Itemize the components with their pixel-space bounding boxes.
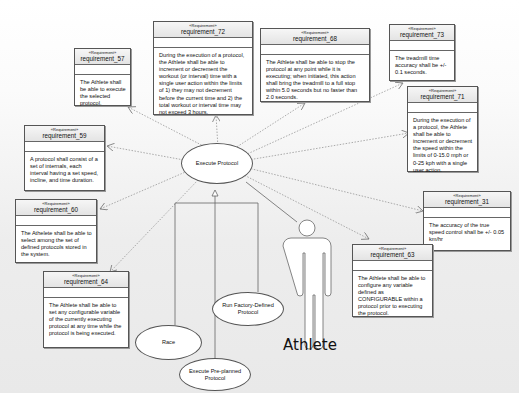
requirement-60[interactable]: «Requirement»requirement_60 The Athelete… xyxy=(15,199,97,263)
requirement-text: During the execution of a protocol, the … xyxy=(154,48,252,120)
requirement-63[interactable]: «Requirement»requirement_63 The Athlete … xyxy=(352,244,433,317)
requirement-text: A protocol shall consist of a set of int… xyxy=(25,152,104,188)
use-case-race[interactable]: Race xyxy=(135,325,202,360)
requirement-text: The accuracy of the true speed control s… xyxy=(424,218,510,247)
attribute-compartment xyxy=(261,45,369,55)
attribute-compartment xyxy=(75,65,130,75)
requirement-59[interactable]: «Requirement»requirement_59 A protocol s… xyxy=(24,125,105,191)
requirement-text: The treadmill time accuracy shall be +/-… xyxy=(390,51,454,80)
use-case-execute-protocol[interactable]: Execute Protocol xyxy=(181,143,253,184)
attribute-compartment xyxy=(424,208,510,218)
requirement-name: requirement_68 xyxy=(263,35,367,43)
requirement-text: The Athlete shall be able to configure a… xyxy=(353,271,432,322)
attribute-compartment xyxy=(408,103,477,113)
attribute-compartment xyxy=(154,38,252,48)
requirement-31[interactable]: «Requirement»requirement_31 The accuracy… xyxy=(423,191,511,251)
actor-figure xyxy=(283,220,331,349)
attribute-compartment xyxy=(353,261,432,271)
requirement-name: requirement_64 xyxy=(46,278,126,286)
requirement-name: requirement_31 xyxy=(426,198,508,206)
requirement-name: requirement_60 xyxy=(18,206,94,214)
requirement-68[interactable]: «Requirement»requirement_68 The Athlete … xyxy=(260,28,370,102)
requirement-name: requirement_59 xyxy=(27,132,102,140)
use-case-run-factory-defined-protocol[interactable]: Run Factory-Defined Protocol xyxy=(212,292,284,326)
requirement-text: The Athelete shall be able to select amo… xyxy=(16,226,96,262)
attribute-compartment xyxy=(44,288,128,298)
requirement-57[interactable]: «Requirement»requirement_57 The Athlete … xyxy=(74,48,131,106)
requirement-text: The Athlete shall be able to set any con… xyxy=(44,298,128,341)
attribute-compartment xyxy=(25,142,104,152)
requirement-name: requirement_57 xyxy=(77,55,128,63)
requirement-73[interactable]: «Requirement»requirement_73 The treadmil… xyxy=(389,24,455,81)
requirement-name: requirement_73 xyxy=(392,31,452,39)
use-case-execute-pre-planned-protocol[interactable]: Execute Pre-planned Protocol xyxy=(179,358,251,391)
requirement-text: The Athlete shall be able to execute the… xyxy=(75,75,130,111)
requirement-71[interactable]: «Requirement»requirement_71 During the e… xyxy=(407,86,478,172)
actor-label: Athlete xyxy=(283,336,337,354)
requirement-text: The Athlete shall be able to stop the pr… xyxy=(261,55,369,106)
attribute-compartment xyxy=(16,216,96,226)
attribute-compartment xyxy=(390,41,454,51)
requirement-72[interactable]: «Requirement»requirement_72 During the e… xyxy=(153,21,253,115)
requirement-name: requirement_71 xyxy=(410,93,475,101)
requirement-name: requirement_72 xyxy=(156,28,250,36)
requirement-64[interactable]: «Requirement»requirement_64 The Athlete … xyxy=(43,271,129,348)
requirement-text: During the execution of a protocol, the … xyxy=(408,113,477,178)
requirement-name: requirement_63 xyxy=(355,251,430,259)
